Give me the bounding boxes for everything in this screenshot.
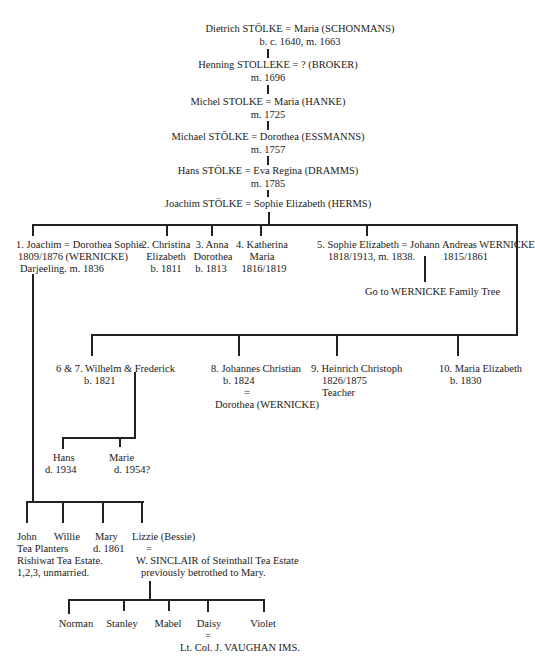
child-dates: 1816/1819 [242, 262, 287, 275]
connector-line [268, 212, 270, 224]
child-dates: b. 1821 [84, 374, 116, 387]
sibling-bar-joachim [26, 501, 144, 503]
sibling-bar-lizzie [68, 599, 265, 601]
drop-line [166, 224, 168, 236]
connector-line [267, 121, 269, 130]
ancestor-gen5-names: Hans STÖLKE = Eva Regina (DRAMMS) [178, 164, 359, 177]
spouse-name: Dorothea (WERNICKE) [215, 398, 319, 411]
drop-line [238, 334, 240, 356]
daisy-spouse-name: Lt. Col. J. VAUGHAN IMS. [180, 641, 300, 654]
drop-line [168, 599, 170, 611]
drop-line [336, 334, 338, 356]
connector-line [267, 49, 269, 58]
drop-line [62, 501, 64, 523]
ancestor-gen6-names: Joachim STÖLKE = Sophie Elizabeth (HERMS… [165, 197, 371, 210]
grandchild-dates: d. 1954? [114, 463, 150, 476]
great-grandchild-stanley: Stanley [106, 617, 138, 630]
wilhelm-descent-line [134, 372, 136, 439]
ancestor-gen4-dates: m. 1757 [251, 143, 285, 156]
grandchild-lizzie: Lizzie (Bessie) [132, 530, 195, 543]
drop-line [263, 599, 265, 612]
sibling-bar-row2 [91, 334, 518, 336]
child-dates: 1818/1913, m. 1838. [328, 250, 415, 263]
drop-line [32, 224, 34, 236]
drop-line [457, 334, 459, 356]
drop-line [260, 224, 262, 236]
wernicke-family-tree-link[interactable]: Go to WERNICKE Family Tree [365, 285, 500, 298]
ancestor-gen3-names: Michel STOLKE = Maria (HANKE) [190, 95, 345, 108]
drop-line [62, 437, 64, 449]
child-dates: b. 1830 [450, 374, 482, 387]
great-grandchild-mabel: Mabel [155, 617, 182, 630]
drop-line [102, 501, 104, 523]
ancestor-gen1-names: Dietrich STÖLKE = Maria (SCHONMANS) [205, 22, 394, 35]
drop-line [207, 599, 209, 612]
ancestor-gen1-dates: b. c. 1640, m. 1663 [259, 35, 340, 48]
drop-line [141, 501, 143, 523]
grandchild-dates: d. 1934 [45, 463, 77, 476]
john-willie-status: 1,2,3, unmarried. [17, 566, 89, 579]
ancestor-gen2-names: Henning STOLLEKE = ? (BROKER) [198, 58, 358, 71]
mary-dates: d. 1861 [93, 542, 125, 555]
connector-line [267, 190, 269, 197]
connector-line [424, 256, 426, 282]
great-grandchild-norman: Norman [59, 617, 93, 630]
connector-line [267, 85, 269, 94]
spouse-dates: 1815/1861 [443, 250, 488, 263]
ancestor-gen3-dates: m. 1725 [251, 108, 285, 121]
ancestor-gen5-dates: m. 1785 [251, 177, 285, 190]
drop-line [26, 501, 28, 523]
drop-line [91, 334, 93, 356]
lizzie-spouse-note: previously betrothed to Mary. [141, 566, 266, 579]
child-dates: b. 1811 [150, 262, 181, 275]
drop-line [123, 599, 125, 611]
joachim-descent-line [32, 274, 34, 503]
drop-line [68, 599, 70, 614]
child-dates: b. 1813 [195, 262, 227, 275]
sibling-bar-wilhelm [62, 437, 136, 439]
drop-line [119, 437, 121, 447]
drop-line [366, 224, 368, 236]
great-grandchild-violet: Violet [250, 617, 276, 630]
ancestor-gen4-names: Michael STÖLKE = Dorothea (ESSMANNS) [171, 130, 364, 143]
child-occupation: Teacher [322, 386, 355, 399]
sibling-bar-row1 [32, 224, 518, 226]
ancestor-gen2-dates: m. 1696 [251, 71, 285, 84]
drop-line [211, 224, 213, 236]
lizzie-descent-line [149, 581, 151, 600]
